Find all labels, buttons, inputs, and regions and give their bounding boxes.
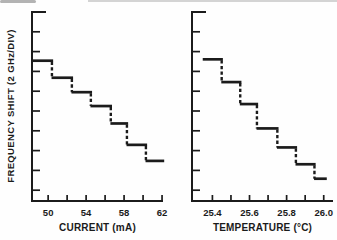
x-tick-label: 62 <box>157 207 168 218</box>
x-tick-label: 25.6 <box>240 207 259 218</box>
axes <box>192 12 333 201</box>
x-axis-title: CURRENT (mA) <box>59 222 136 233</box>
staircase-trace <box>203 59 327 178</box>
x-axis-title: TEMPERATURE (°C) <box>213 222 312 233</box>
x-tick-label: 54 <box>81 207 92 218</box>
x-tick-label: 50 <box>43 207 54 218</box>
y-axis-ticks <box>192 32 200 190</box>
x-tick-labels: 25.425.625.826.0 <box>203 207 333 218</box>
x-tick-label: 25.8 <box>277 207 296 218</box>
left-chart-panel-current: 50545862CURRENT (mA) <box>0 0 170 240</box>
figure-frequency-shift-panels: FREQUENCY SHIFT (2 GHz/DIV) 50545862CURR… <box>0 0 337 240</box>
x-tick-label: 26.0 <box>314 207 333 218</box>
staircase-trace <box>32 61 165 161</box>
x-tick-labels: 50545862 <box>43 207 167 218</box>
x-tick-label: 25.4 <box>203 207 222 218</box>
x-tick-label: 58 <box>119 207 130 218</box>
y-axis-ticks <box>32 32 40 190</box>
right-chart-panel-temperature: 25.425.625.826.0TEMPERATURE (°C) <box>170 0 337 240</box>
